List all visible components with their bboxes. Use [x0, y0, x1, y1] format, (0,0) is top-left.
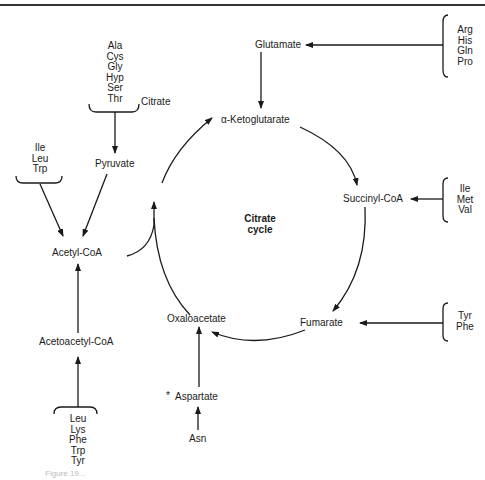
node-alpha-ketoglutarate: α-Ketoglutarate — [221, 114, 290, 125]
node-citrate: Citrate — [141, 96, 170, 107]
group-to-glutamate: Arg His Gln Pro — [449, 25, 481, 67]
aa-ile: Ile — [449, 184, 481, 195]
group-to-pyruvate: Ala Cys Gly Hyp Ser Thr — [97, 41, 133, 105]
group-to-acetyl-coa: Ile Leu Trp — [24, 143, 56, 175]
arc-oxaloacetate-to-citrate — [154, 218, 190, 315]
aa-tyr: Tyr — [449, 311, 481, 322]
cycle-center-label: Citrate cycle — [230, 213, 290, 235]
aa-val: Val — [449, 205, 481, 216]
node-succinyl-coa: Succinyl-CoA — [343, 193, 403, 204]
aa-trp: Trp — [24, 164, 56, 175]
aa-thr: Thr — [97, 94, 133, 105]
aa-ala: Ala — [97, 41, 133, 52]
group-to-acetoacetyl-coa: Leu Lys Phe Trp Tyr — [60, 414, 96, 467]
center-label-line-2: cycle — [230, 224, 290, 235]
node-glutamate: Glutamate — [255, 39, 301, 50]
arrow-acetylcoa-to-citrate — [127, 202, 154, 256]
node-acetyl-coa: Acetyl-CoA — [52, 247, 102, 258]
group-to-succinyl-coa: Ile Met Val — [449, 184, 481, 216]
pathway-arrows — [0, 0, 485, 480]
node-aspartate: Aspartate — [175, 391, 218, 402]
aa-tyr: Tyr — [60, 456, 96, 467]
node-oxaloacetate: Oxaloacetate — [167, 313, 226, 324]
arrow-succinyl-to-fumarate — [333, 207, 365, 311]
node-asn: Asn — [189, 433, 206, 444]
arrow-akg-to-succinyl — [300, 127, 357, 185]
aspartate-mark: * — [166, 390, 170, 401]
figure-caption: Figure 19... — [45, 469, 85, 478]
arrow-fumarate-to-oxaloacetate — [212, 330, 305, 341]
aa-arg: Arg — [449, 25, 481, 36]
center-label-line-1: Citrate — [230, 213, 290, 224]
node-pyruvate: Pyruvate — [95, 158, 134, 169]
aa-pro: Pro — [449, 57, 481, 68]
node-acetoacetyl-coa: Acetoacetyl-CoA — [39, 336, 113, 347]
aa-ile: Ile — [24, 143, 56, 154]
node-fumarate: Fumarate — [300, 317, 343, 328]
arrow-citrate-to-akg — [162, 118, 212, 183]
aa-phe: Phe — [449, 322, 481, 333]
aa-leu: Leu — [60, 414, 96, 425]
group-to-fumarate: Tyr Phe — [449, 311, 481, 332]
